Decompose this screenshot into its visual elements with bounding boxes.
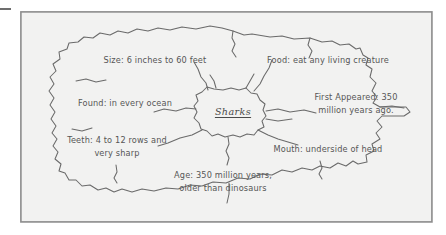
screenshot-canvas: Sharks Size: 6 inches to 60 feet Food: e… (0, 0, 446, 235)
divider-left-lower (72, 128, 92, 131)
page-margin-tick (0, 8, 11, 10)
divider-upper-right (308, 38, 312, 58)
connector-to-mouth (258, 130, 298, 145)
connector-to-food-2 (246, 74, 254, 88)
connector-to-first-appeared-2 (266, 119, 292, 121)
connector-to-teeth (158, 130, 202, 146)
connector-to-found (154, 108, 196, 112)
divider-left-upper (76, 79, 106, 82)
connector-to-age (226, 137, 229, 165)
divider-lower-left (114, 165, 117, 183)
connector-to-size (194, 62, 208, 90)
center-node-label: Sharks (209, 106, 257, 117)
concept-map-drawing (20, 11, 433, 223)
worksheet-sheet: Sharks Size: 6 inches to 60 feet Food: e… (20, 11, 433, 223)
connector-to-age-2 (227, 183, 229, 203)
connector-to-size-2 (210, 75, 216, 88)
divider-lower-right (319, 161, 322, 179)
connector-to-first-appeared (266, 109, 316, 113)
divider-top-center (232, 31, 236, 57)
connector-to-food (254, 60, 272, 91)
